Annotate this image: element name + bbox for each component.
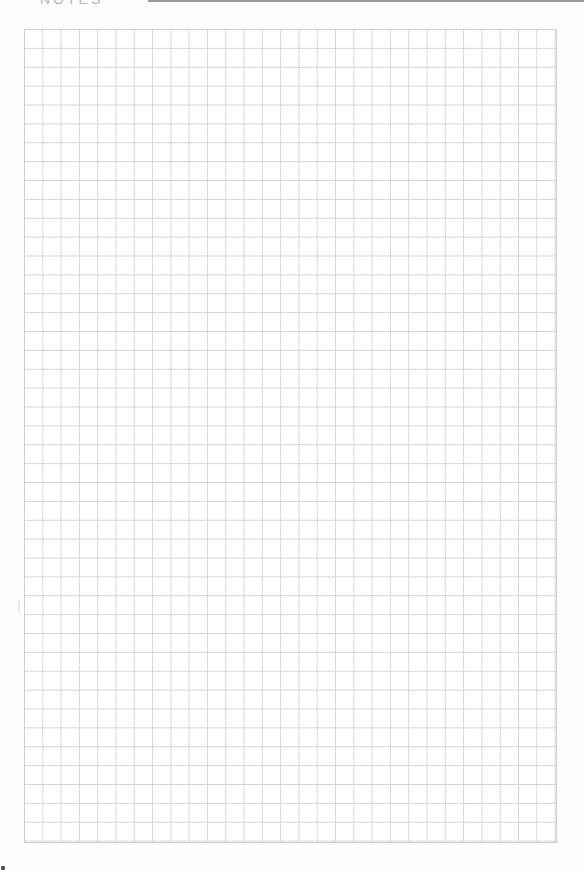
corner-mark: [1, 866, 5, 870]
page-header-label: NOTES: [40, 0, 103, 6]
margin-mark: [18, 600, 20, 614]
graph-paper-grid: [24, 29, 557, 843]
header-rule-line: [148, 0, 584, 2]
